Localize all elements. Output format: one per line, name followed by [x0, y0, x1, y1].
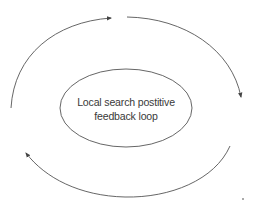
loop-label-line1: Local search postitive [65, 95, 186, 109]
artifact-dot [242, 198, 244, 200]
loop-label-line2: feedback loop [65, 109, 186, 123]
arrow-bottom [26, 146, 230, 197]
loop-label: Local search postitive feedback loop [65, 95, 186, 123]
feedback-loop-diagram: Local search postitive feedback loop [0, 0, 254, 209]
arrow-top-right [127, 17, 241, 97]
